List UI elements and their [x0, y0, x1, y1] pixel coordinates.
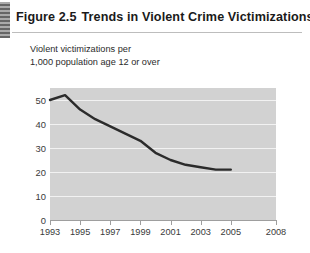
series-line-violent-victimization-rate [50, 88, 276, 220]
x-axis-tick-label: 2003 [190, 227, 210, 237]
x-axis-tick [50, 220, 51, 225]
x-axis-tick-label: 2001 [160, 227, 180, 237]
x-axis-line [50, 220, 276, 221]
x-axis-tick [231, 220, 232, 225]
x-axis-tick-label: 2005 [221, 227, 241, 237]
x-axis-tick-label: 1999 [130, 227, 150, 237]
series-polyline [50, 95, 231, 169]
y-axis-tick-label: 0 [0, 215, 46, 226]
y-axis-tick-label: 10 [0, 191, 46, 202]
y-axis-labels: 01020304050 [0, 0, 46, 253]
y-axis-tick-label: 50 [0, 95, 46, 106]
x-axis-tick [80, 220, 81, 225]
y-axis-tick-label: 20 [0, 167, 46, 178]
x-axis-tick [171, 220, 172, 225]
x-axis-tick [110, 220, 111, 225]
x-axis-tick [140, 220, 141, 225]
line-chart: 01020304050 1993199519971999200120032005… [0, 0, 310, 253]
y-axis-tick-label: 40 [0, 119, 46, 130]
x-axis-tick-label: 1995 [70, 227, 90, 237]
x-axis-tick-label: 1997 [100, 227, 120, 237]
cut-off-caption [40, 244, 304, 251]
x-axis-tick [201, 220, 202, 225]
x-axis-tick [276, 220, 277, 225]
x-axis-tick-label: 2008 [266, 227, 286, 237]
x-axis-tick-label: 1993 [40, 227, 60, 237]
y-axis-tick-label: 30 [0, 143, 46, 154]
